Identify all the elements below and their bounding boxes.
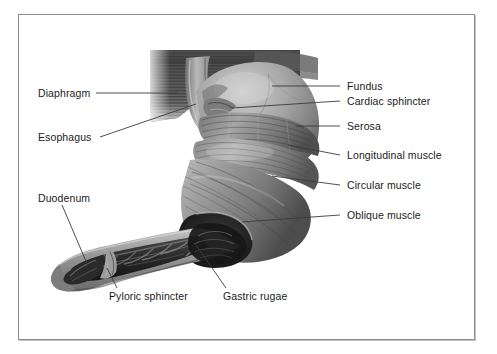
label-circular-muscle: Circular muscle bbox=[347, 179, 421, 191]
label-cardiac-sphincter: Cardiac sphincter bbox=[347, 95, 430, 107]
label-serosa: Serosa bbox=[347, 120, 381, 132]
label-gastric-rugae: Gastric rugae bbox=[223, 290, 287, 302]
label-esophagus: Esophagus bbox=[38, 131, 91, 143]
label-pyloric-sphincter: Pyloric sphincter bbox=[109, 290, 188, 302]
label-diaphragm: Diaphragm bbox=[38, 87, 90, 99]
label-duodenum: Duodenum bbox=[38, 192, 90, 204]
label-oblique-muscle: Oblique muscle bbox=[347, 209, 421, 221]
label-fundus: Fundus bbox=[347, 80, 383, 92]
label-longitudinal-muscle: Longitudinal muscle bbox=[347, 149, 442, 161]
anatomy-figure: Diaphragm Esophagus Duodenum Pyloric sph… bbox=[0, 0, 497, 354]
